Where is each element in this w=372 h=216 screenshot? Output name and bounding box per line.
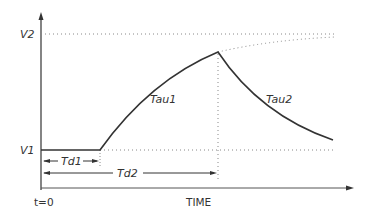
x-axis-arrow-icon [346,186,354,191]
exp-waveform-diagram: Td1 Td2 V2 V1 Tau1 Tau2 t=0 TIME [0,0,372,216]
v2-label: V2 [20,28,35,41]
arrow-right-icon [92,159,99,163]
arrow-left-icon [43,171,50,175]
x-axis [41,186,354,191]
v1-label: V1 [20,144,35,157]
arrow-right-icon [210,171,217,175]
arrow-left-icon [43,159,50,163]
tau1-label: Tau1 [150,93,176,106]
y-axis [39,12,44,190]
y-axis-arrow-icon [39,12,44,20]
t0-label: t=0 [34,196,54,208]
tau1-continuation-dotted [218,37,335,52]
tau2-label: Tau2 [266,93,292,106]
time-axis-label: TIME [185,196,211,208]
td1-label: Td1 [61,155,82,168]
td2-label: Td2 [117,167,138,180]
